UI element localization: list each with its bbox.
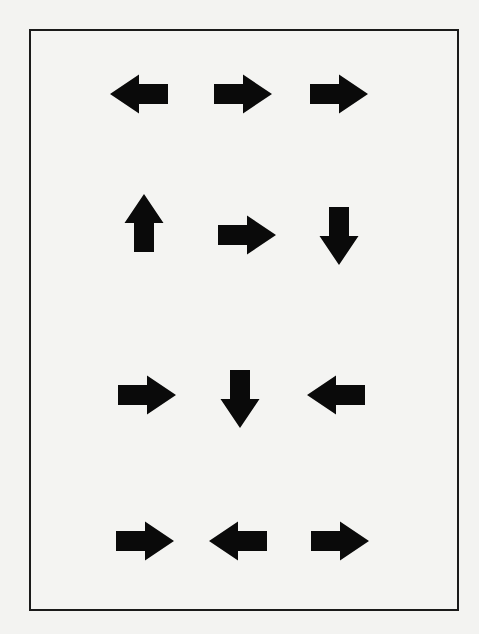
arrow-left-icon: left [110, 65, 168, 123]
arrow-right-icon: right [310, 65, 368, 123]
stimulus-sheet: leftrightrightuprightdownrightdownleftri… [0, 0, 479, 634]
arrow-right-icon: right [116, 512, 174, 570]
arrow-left-icon: left [209, 512, 267, 570]
arrow-right-icon: right [218, 206, 276, 264]
arrow-down-icon: down [310, 207, 368, 265]
arrow-left-icon: left [307, 366, 365, 424]
arrow-right-icon: right [118, 366, 176, 424]
arrow-right-icon: right [311, 512, 369, 570]
arrow-up-icon: up [115, 194, 173, 252]
arrow-right-icon: right [214, 65, 272, 123]
arrow-down-icon: down [211, 370, 269, 428]
